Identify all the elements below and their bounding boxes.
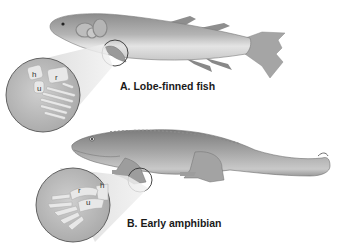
amphibian-far-front-foot bbox=[112, 170, 124, 174]
amphibian-bone-label-u: u bbox=[86, 198, 90, 207]
panel-a-label: A. Lobe-finned fish bbox=[120, 80, 215, 92]
fish-bone-label-h: h bbox=[32, 70, 36, 79]
fish-bone-label-r: r bbox=[55, 73, 58, 82]
panel-b-label: B. Early amphibian bbox=[127, 217, 222, 229]
amphibian-limb-bone-inset: r h u bbox=[36, 168, 110, 242]
fish-eye bbox=[61, 22, 64, 25]
amphibian-pupil bbox=[91, 138, 93, 140]
amphibian-bone-label-h: h bbox=[100, 181, 104, 190]
amphibian-far-hind-foot bbox=[180, 172, 196, 176]
amphibian-tail-tip bbox=[318, 153, 328, 156]
amphibian-bone-label-r: r bbox=[78, 186, 81, 195]
fish-bone-label-u: u bbox=[37, 84, 41, 93]
fish-fin-bone-inset: h r u bbox=[6, 58, 80, 132]
evolution-diagram: h r u bbox=[0, 0, 341, 251]
